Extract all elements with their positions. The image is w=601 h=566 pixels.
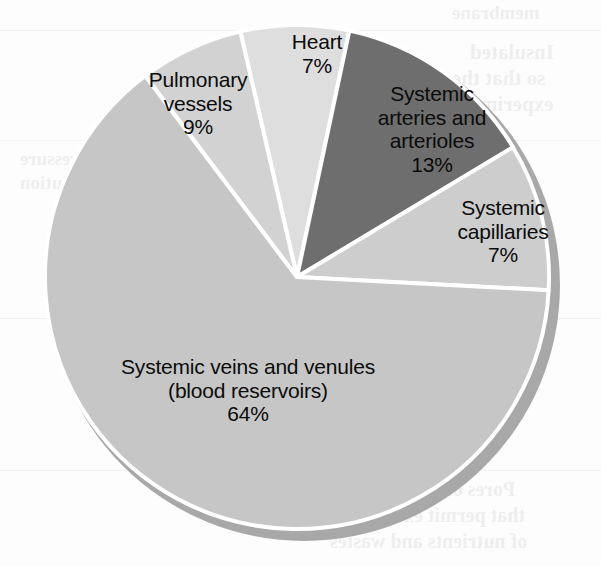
slice-label-line: (blood reservoirs) [78, 379, 418, 403]
slice-label-line: capillaries [418, 220, 588, 244]
slice-label-line: Systemic [418, 196, 588, 220]
slice-label-line: Pulmonary [118, 68, 278, 92]
slice-percent: 7% [262, 54, 372, 78]
slice-label-systemic-capillaries: Systemic capillaries 7% [418, 196, 588, 267]
slice-label-systemic-arteries: Systemic arteries and arterioles 13% [352, 82, 512, 176]
slice-label-line: vessels [118, 92, 278, 116]
slice-percent: 7% [418, 243, 588, 267]
pie-chart: Heart 7% Pulmonary vessels 9% Systemic a… [0, 0, 601, 566]
slice-label-line: arterioles [352, 129, 512, 153]
slice-percent: 64% [78, 402, 418, 426]
slice-percent: 9% [118, 115, 278, 139]
slice-label-line: Systemic veins and venules [78, 355, 418, 379]
slice-label-line: Systemic [352, 82, 512, 106]
slice-label-systemic-veins: Systemic veins and venules (blood reserv… [78, 355, 418, 426]
pie-chart-page: membraneInsulatedso that theexperimentTe… [0, 0, 601, 566]
slice-label-pulmonary-vessels: Pulmonary vessels 9% [118, 68, 278, 139]
slice-percent: 13% [352, 153, 512, 177]
slice-label-line: arteries and [352, 106, 512, 130]
slice-label-heart: Heart 7% [262, 30, 372, 77]
slice-label-line: Heart [262, 30, 372, 54]
